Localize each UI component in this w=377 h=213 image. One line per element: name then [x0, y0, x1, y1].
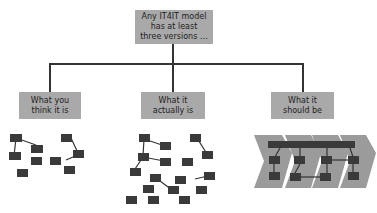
actual-cluster-icon: [126, 134, 215, 204]
node-illustrations: [0, 0, 377, 213]
think-cluster-icon: [9, 134, 84, 177]
